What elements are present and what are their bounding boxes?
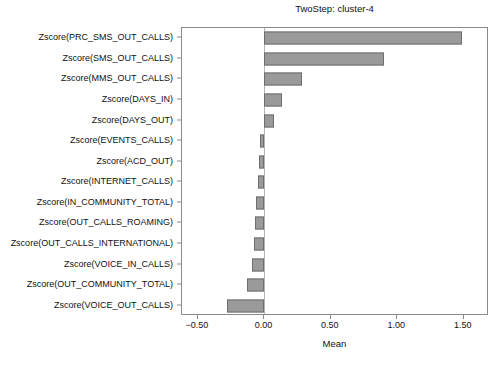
bar — [260, 135, 264, 148]
x-tick-mark — [197, 315, 198, 319]
category-label: Zscore(DAYS_OUT) — [0, 114, 177, 125]
bar — [254, 238, 265, 251]
category-label: Zscore(SMS_OUT_CALLS) — [0, 52, 177, 63]
bar — [256, 196, 264, 209]
category-label: Zscore(ACD_OUT) — [0, 155, 177, 166]
bar — [258, 176, 265, 189]
bar — [247, 279, 264, 292]
x-tick-label: 0.50 — [321, 320, 339, 331]
x-tick-label: −0.50 — [186, 320, 209, 331]
bar — [264, 32, 462, 45]
bar — [259, 155, 264, 168]
category-label: Zscore(OUT_CALLS_INTERNATIONAL) — [0, 238, 177, 249]
chart-title: TwoStep: cluster-4 — [181, 3, 488, 15]
category-axis: Zscore(PRC_SMS_OUT_CALLS)Zscore(SMS_OUT_… — [0, 27, 177, 315]
category-label: Zscore(PRC_SMS_OUT_CALLS) — [0, 32, 177, 43]
x-tick-label: 1.50 — [454, 320, 472, 331]
category-label: Zscore(VOICE_IN_CALLS) — [0, 258, 177, 269]
bar — [264, 94, 281, 107]
value-axis: −0.500.000.501.001.50 — [181, 315, 488, 323]
x-tick-mark — [396, 315, 397, 319]
category-label: Zscore(OUT_CALLS_ROAMING) — [0, 217, 177, 228]
x-tick-label: 1.00 — [388, 320, 406, 331]
plot-area — [181, 27, 488, 315]
bar — [264, 73, 301, 86]
bar — [255, 217, 264, 230]
bar — [227, 299, 264, 312]
bar — [264, 52, 384, 65]
category-label: Zscore(EVENTS_CALLS) — [0, 135, 177, 146]
zero-reference-line — [264, 28, 265, 314]
category-label: Zscore(DAYS_IN) — [0, 94, 177, 105]
bar — [264, 114, 273, 127]
x-axis-label: Mean — [181, 338, 488, 350]
category-label: Zscore(OUT_COMMUNITY_TOTAL) — [0, 279, 177, 290]
x-tick-mark — [263, 315, 264, 319]
x-tick-mark — [463, 315, 464, 319]
category-label: Zscore(VOICE_OUT_CALLS) — [0, 299, 177, 310]
category-label: Zscore(IN_COMMUNITY_TOTAL) — [0, 196, 177, 207]
bar — [252, 258, 264, 271]
x-tick-mark — [330, 315, 331, 319]
x-tick-label: 0.00 — [255, 320, 273, 331]
category-label: Zscore(MMS_OUT_CALLS) — [0, 73, 177, 84]
twostep-cluster-bar-chart: TwoStep: cluster-4 Zscore(PRC_SMS_OUT_CA… — [0, 0, 503, 365]
category-label: Zscore(INTERNET_CALLS) — [0, 176, 177, 187]
